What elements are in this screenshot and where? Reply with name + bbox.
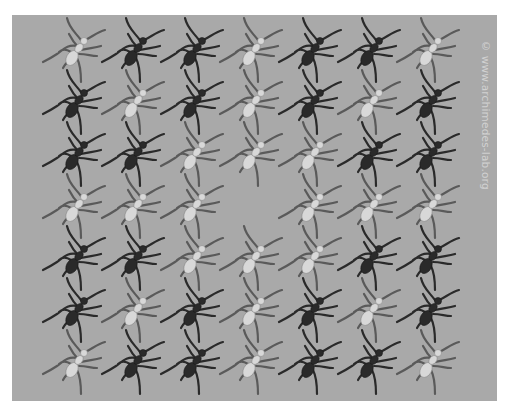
- light-ant: [397, 330, 459, 394]
- light-ant: [43, 330, 105, 394]
- dark-ant: [279, 330, 341, 394]
- light-ant: [102, 174, 164, 238]
- light-ant: [220, 278, 282, 342]
- dark-ant: [102, 18, 164, 82]
- image-panel: © www.archimedes-lab.org: [12, 15, 497, 401]
- dark-ant: [338, 18, 400, 82]
- light-ant: [161, 122, 223, 186]
- dark-ant: [338, 226, 400, 290]
- light-ant: [279, 226, 341, 290]
- dark-ant: [43, 278, 105, 342]
- dark-ant: [279, 278, 341, 342]
- light-ant: [397, 174, 459, 238]
- light-ant: [161, 174, 223, 238]
- dark-ant: [102, 226, 164, 290]
- dark-ant: [279, 18, 341, 82]
- light-ant: [338, 70, 400, 134]
- light-ant: [338, 174, 400, 238]
- light-ant: [220, 18, 282, 82]
- dark-ant: [161, 18, 223, 82]
- light-ant: [338, 278, 400, 342]
- light-ant: [102, 70, 164, 134]
- dark-ant: [338, 330, 400, 394]
- light-ant: [220, 226, 282, 290]
- ant-grid: [12, 15, 497, 401]
- light-ant: [43, 174, 105, 238]
- dark-ant: [279, 70, 341, 134]
- dark-ant: [397, 278, 459, 342]
- dark-ant: [43, 122, 105, 186]
- dark-ant: [397, 122, 459, 186]
- dark-ant: [102, 122, 164, 186]
- light-ant: [220, 70, 282, 134]
- dark-ant: [397, 226, 459, 290]
- dark-ant: [43, 70, 105, 134]
- light-ant: [279, 174, 341, 238]
- dark-ant: [43, 226, 105, 290]
- light-ant: [102, 278, 164, 342]
- dark-ant: [338, 122, 400, 186]
- light-ant: [397, 18, 459, 82]
- light-ant: [43, 18, 105, 82]
- dark-ant: [161, 278, 223, 342]
- light-ant: [220, 330, 282, 394]
- watermark-text: © www.archimedes-lab.org: [480, 40, 492, 190]
- dark-ant: [161, 70, 223, 134]
- light-ant: [279, 122, 341, 186]
- light-ant: [220, 122, 282, 186]
- light-ant: [161, 226, 223, 290]
- dark-ant: [397, 70, 459, 134]
- dark-ant: [161, 330, 223, 394]
- dark-ant: [102, 330, 164, 394]
